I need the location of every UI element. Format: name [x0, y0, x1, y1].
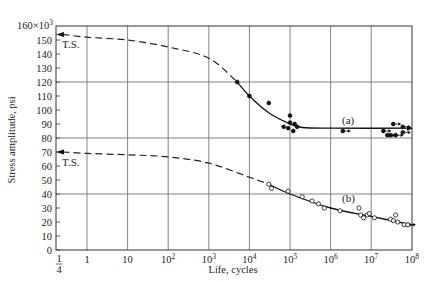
data-point-open [372, 216, 376, 220]
runout-arrow-icon [348, 129, 351, 133]
curve-a-label: (a) [342, 114, 355, 127]
y-tick-label: 20 [42, 217, 53, 228]
data-point-filled [286, 126, 290, 130]
y-tick-label: 120 [36, 77, 52, 88]
y-tick-label: 110 [37, 91, 52, 102]
y-axis-title: Stress amplitude, psi [6, 96, 17, 183]
runout-point [341, 129, 345, 133]
ts-arrow-icon [56, 150, 64, 155]
runout-point [401, 125, 405, 129]
runout-point [382, 129, 386, 133]
y-tick-label: 50 [42, 175, 53, 186]
data-point-filled [282, 125, 286, 129]
runout-point [391, 122, 395, 126]
x-tick-label: 10 [122, 254, 133, 265]
data-point-open [396, 220, 400, 224]
x-tick-label: 106 [323, 252, 338, 265]
x-tick-exponent: 5 [293, 252, 297, 261]
ts-label-b: T.S. [62, 156, 80, 168]
data-point-open [322, 206, 326, 210]
x-tick-label: 105 [283, 252, 298, 265]
data-point-filled [288, 121, 292, 125]
runout-arrow-icon [388, 129, 391, 133]
y-tick-label: 0 [47, 245, 52, 256]
x-tick-label: 1 [84, 254, 89, 265]
curve-b-extrapolated [63, 152, 269, 184]
runout-point [406, 223, 410, 227]
data-point-filled [288, 114, 292, 118]
x-axis-title: Life, cycles [209, 264, 258, 275]
data-point-filled [291, 129, 295, 133]
data-point-open [357, 206, 361, 210]
x-tick-exponent: 2 [172, 252, 176, 261]
curve-b-label: (b) [342, 192, 355, 205]
y-tick-label: 130 [36, 63, 52, 74]
x-tick-exponent: 8 [415, 252, 419, 261]
y-tick-label: 10 [42, 231, 53, 242]
x-tick-label-quarter-num: 1 [56, 253, 61, 264]
y-tick-label: 150 [36, 35, 52, 46]
data-point-open [310, 199, 314, 203]
x-tick-exponent: 3 [212, 252, 216, 261]
data-markers [235, 80, 416, 227]
y-axis-ticks: 0102030405060708090100110120130140150160… [17, 18, 60, 256]
data-point-open [316, 202, 320, 206]
x-tick-exponent: 6 [334, 252, 338, 261]
y-tick-label: 40 [42, 189, 53, 200]
data-point-open [391, 219, 395, 223]
x-tick-exponent: 4 [253, 252, 257, 261]
runout-arrow-icon [408, 131, 411, 135]
y-tick-label: 90 [42, 119, 53, 130]
y-tick-label-top: 160×103 [17, 18, 53, 31]
y-tick-label: 80 [42, 133, 53, 144]
y-tick-label: 70 [42, 147, 53, 158]
x-tick-label: 108 [405, 252, 420, 265]
runout-point [394, 133, 398, 137]
fatigue-sn-chart: 0102030405060708090100110120130140150160… [0, 0, 432, 282]
data-point-filled [248, 94, 252, 98]
data-point-open [367, 212, 371, 216]
x-tick-label-quarter-den: 4 [56, 264, 62, 275]
y-tick-label: 30 [42, 203, 53, 214]
data-point-open [362, 216, 366, 220]
y-tick-label: 100 [36, 105, 52, 116]
ts-arrow-icon [56, 32, 64, 37]
data-point-open [269, 186, 273, 190]
x-tick-label: 107 [364, 252, 379, 265]
x-tick-exponent: 7 [375, 252, 379, 261]
runout-point [401, 131, 405, 135]
data-point-open [267, 182, 271, 186]
curves [56, 32, 413, 227]
y-tick-exponent: 3 [49, 18, 53, 27]
data-point-open [338, 209, 342, 213]
data-point-open [300, 195, 304, 199]
data-point-filled [267, 101, 271, 105]
y-tick-label: 60 [42, 161, 53, 172]
ts-label-a: T.S. [62, 38, 80, 50]
curve-a-fitted [237, 82, 412, 128]
data-point-filled [235, 80, 239, 84]
runout-arrow-icon [398, 122, 401, 126]
data-point-open [286, 189, 290, 193]
runout-arrow-icon [413, 223, 416, 227]
runout-point [389, 133, 393, 137]
data-point-open [394, 213, 398, 217]
curve-a-extrapolated [63, 34, 238, 82]
data-point-filled [295, 125, 299, 129]
x-tick-label: 102 [161, 252, 176, 265]
y-tick-label: 140 [36, 49, 52, 60]
